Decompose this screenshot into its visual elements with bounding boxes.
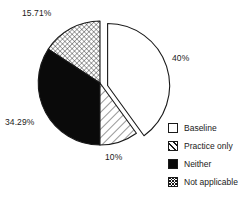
pie-chart-figure: 15.71% 40% 34.29% 10% Baseline Practice … (0, 0, 247, 202)
cross-hatch-square-icon (168, 177, 178, 187)
legend-item-practice-only: Practice only (168, 137, 246, 155)
legend-label-practice-only: Practice only (184, 142, 233, 151)
legend-item-baseline: Baseline (168, 119, 246, 137)
diagonal-hatch-square-icon (168, 141, 178, 151)
chart-legend: Baseline Practice only Neither Not appli… (168, 119, 246, 191)
slice-label-neither: 34.29% (5, 117, 34, 127)
legend-label-not-applicable: Not applicable (184, 178, 238, 187)
legend-label-baseline: Baseline (184, 124, 217, 133)
blank-square-icon (168, 123, 178, 133)
solid-black-square-icon (168, 159, 178, 169)
slice-label-not-applicable: 15.71% (22, 8, 51, 18)
legend-label-neither: Neither (184, 160, 211, 169)
slice-label-baseline: 40% (172, 53, 189, 63)
legend-item-not-applicable: Not applicable (168, 173, 246, 191)
slice-label-practice-only: 10% (105, 152, 122, 162)
legend-item-neither: Neither (168, 155, 246, 173)
